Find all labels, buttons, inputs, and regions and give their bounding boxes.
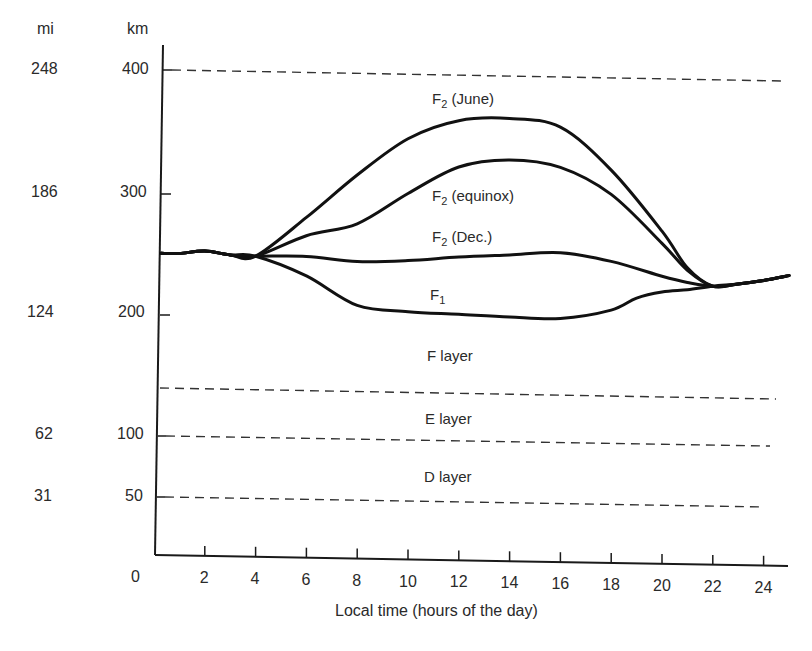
ref-line-100km: [166, 436, 770, 446]
label-f-layer: F layer: [427, 347, 473, 364]
label-f1: F1: [430, 286, 445, 306]
x-tick-label-6: 6: [301, 571, 310, 589]
curve-f2-equinox: [161, 160, 789, 287]
x-tick-label-0: 0: [131, 568, 140, 586]
x-tick-label-2: 2: [200, 569, 209, 587]
label-d-layer: D layer: [424, 468, 472, 485]
mi-tick-62: 62: [35, 425, 53, 443]
y-axis: [155, 45, 163, 555]
x-tick-label-12: 12: [450, 573, 468, 591]
km-tick-300: 300: [120, 183, 147, 201]
km-tick-200: 200: [118, 303, 145, 321]
x-tick-label-24: 24: [755, 579, 773, 597]
axes: [155, 45, 788, 566]
ref-line-f-e-boundary: [160, 388, 776, 399]
mi-tick-124: 124: [27, 303, 54, 321]
km-tick-400: 400: [122, 60, 149, 78]
mi-tick-31: 31: [34, 487, 52, 505]
x-axis: [155, 555, 788, 566]
x-tick-label-22: 22: [704, 578, 722, 596]
mi-tick-248: 248: [31, 60, 58, 78]
x-tick-label-14: 14: [501, 574, 519, 592]
ref-line-50km: [165, 497, 764, 507]
km-tick-50: 50: [125, 487, 143, 505]
x-tick-label-10: 10: [399, 573, 417, 591]
x-axis-label: Local time (hours of the day): [335, 602, 538, 620]
x-tick-label-20: 20: [653, 577, 671, 595]
curves: [161, 118, 789, 319]
label-f2-june: F2 (June): [432, 90, 494, 110]
x-tick-label-8: 8: [352, 572, 361, 590]
x-ticks: [205, 546, 764, 566]
km-axis-header: km: [127, 20, 148, 38]
km-tick-100: 100: [117, 425, 144, 443]
label-f2-dec: F2 (Dec.): [432, 228, 492, 248]
x-tick-label-16: 16: [551, 575, 569, 593]
ionosphere-chart: [0, 0, 812, 651]
ref-line-400km: [172, 70, 782, 81]
mi-axis-header: mi: [37, 20, 54, 38]
x-tick-label-4: 4: [251, 570, 260, 588]
label-e-layer: E layer: [425, 410, 472, 427]
label-f2-equinox: F2 (equinox): [432, 187, 514, 207]
x-tick-label-18: 18: [602, 576, 620, 594]
mi-tick-186: 186: [31, 183, 58, 201]
